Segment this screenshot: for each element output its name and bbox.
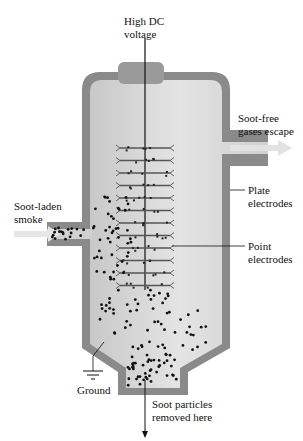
label-line: Soot-free (238, 112, 294, 125)
label-line: gases escape (238, 125, 294, 138)
insulator-cap (118, 62, 164, 84)
label-line: Soot particles (152, 398, 212, 411)
label-line: High DC (124, 15, 164, 28)
label-line: electrodes (248, 253, 293, 266)
label-line: Point (248, 240, 293, 253)
label-line: electrodes (248, 197, 293, 210)
label-line: removed here (152, 411, 212, 424)
label-ground: Ground (77, 384, 111, 397)
label-soot-laden: Soot-laden smoke (14, 200, 62, 226)
label-plate-electrodes: Plate electrodes (248, 184, 293, 210)
label-line: Soot-laden (14, 200, 62, 213)
label-line: smoke (14, 213, 62, 226)
label-point-electrodes: Point electrodes (248, 240, 293, 266)
label-high-dc: High DC voltage (124, 15, 164, 41)
label-line: voltage (124, 28, 164, 41)
label-soot-free: Soot-free gases escape (238, 112, 294, 138)
label-line: Plate (248, 184, 293, 197)
label-soot-removed: Soot particles removed here (152, 398, 212, 424)
